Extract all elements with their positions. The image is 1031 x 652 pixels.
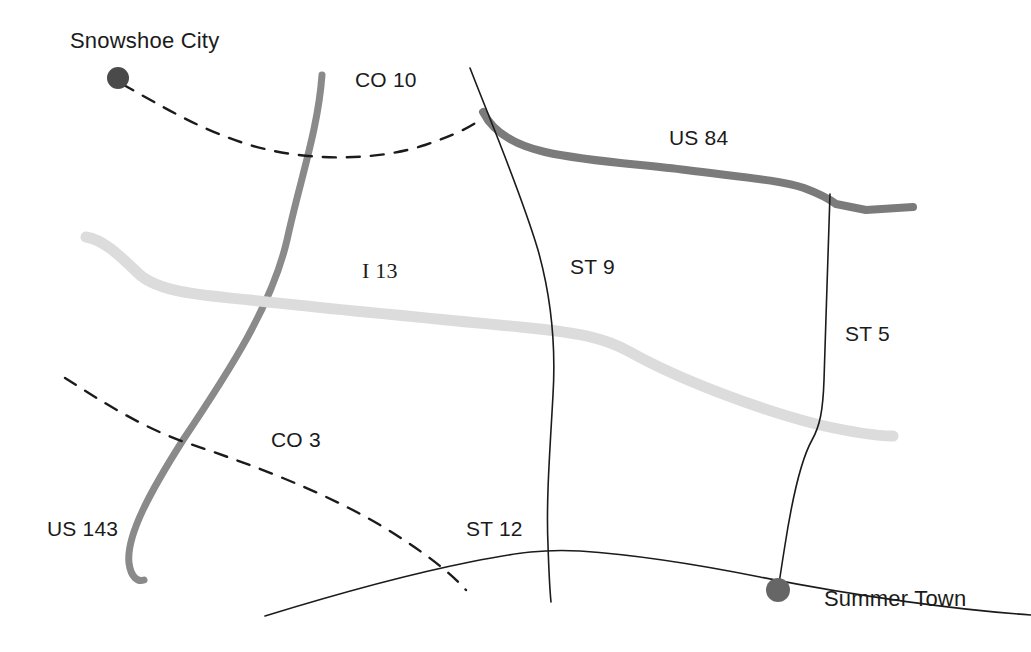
city-marker-snowshoe-city[interactable] — [107, 67, 129, 89]
route-label-us-143: US 143 — [47, 517, 118, 541]
route-label-us-84: US 84 — [669, 126, 728, 150]
route-path-st-5[interactable] — [778, 194, 830, 592]
route-path-us-143[interactable] — [129, 75, 322, 580]
city-label-summer-town: Summer Town — [824, 586, 966, 612]
route-label-st-5: ST 5 — [845, 322, 890, 346]
route-label-st-12: ST 12 — [466, 517, 523, 541]
city-marker-summer-town[interactable] — [766, 578, 790, 602]
route-path-co-10[interactable] — [122, 84, 480, 157]
route-path-co-3[interactable] — [65, 378, 466, 590]
route-label-st-9: ST 9 — [570, 255, 615, 279]
route-label-co-10: CO 10 — [355, 68, 417, 92]
road-map: US 143US 84I 13CO 10CO 3ST 9ST 5ST 12Sno… — [0, 0, 1031, 652]
route-label-co-3: CO 3 — [271, 428, 321, 452]
city-label-snowshoe-city: Snowshoe City — [70, 28, 219, 54]
route-label-i-13: I 13 — [362, 258, 398, 284]
